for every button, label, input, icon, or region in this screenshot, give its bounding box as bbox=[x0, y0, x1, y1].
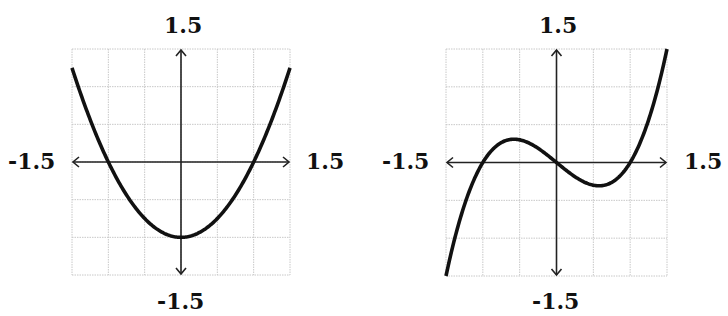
y-min-label: -1.5 bbox=[157, 288, 204, 314]
x-max-label: 1.5 bbox=[306, 148, 344, 174]
cubic-chart: 1.5 -1.5 -1.5 1.5 bbox=[364, 0, 728, 316]
parabola-chart: 1.5 -1.5 -1.5 1.5 bbox=[0, 0, 364, 316]
axes bbox=[73, 50, 289, 274]
y-max-label: 1.5 bbox=[164, 12, 202, 38]
x-min-label: -1.5 bbox=[8, 148, 55, 174]
y-max-label: 1.5 bbox=[539, 12, 577, 38]
x-max-label: 1.5 bbox=[684, 148, 722, 174]
y-min-label: -1.5 bbox=[532, 288, 579, 314]
x-min-label: -1.5 bbox=[382, 148, 429, 174]
